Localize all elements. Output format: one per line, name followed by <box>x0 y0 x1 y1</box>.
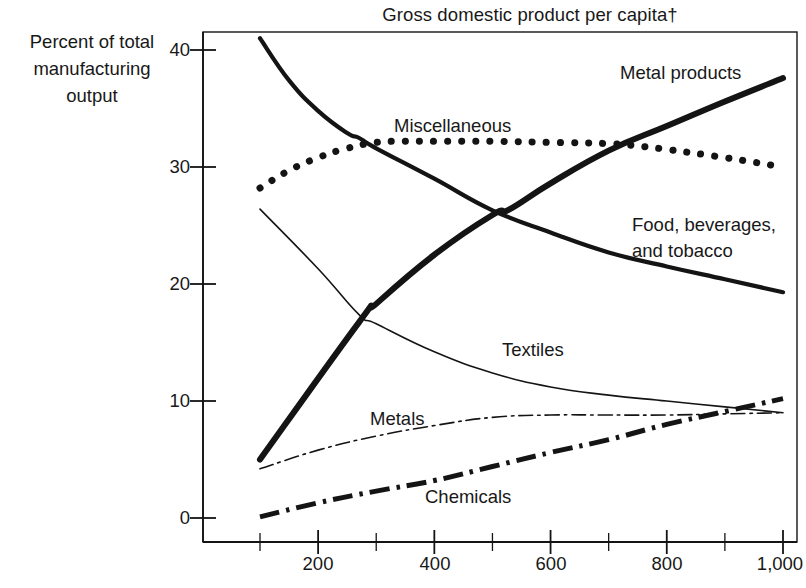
series-layer <box>260 38 783 517</box>
series-line-metal-products <box>260 78 783 459</box>
series-line-chemicals <box>260 399 783 517</box>
series-line-food-beverages-and-tobacco <box>260 38 783 292</box>
plot-area <box>0 0 806 588</box>
chart-figure: Gross domestic product per capita† Perce… <box>0 0 806 588</box>
series-line-textiles <box>260 209 783 413</box>
series-line-miscellaneous <box>260 141 783 188</box>
